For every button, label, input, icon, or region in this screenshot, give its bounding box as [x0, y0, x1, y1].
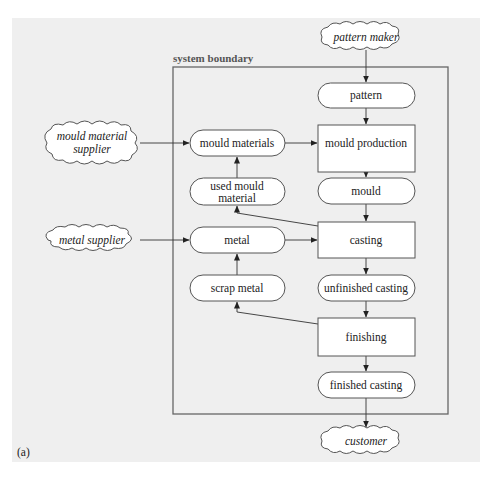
external-customer: customer — [321, 426, 399, 454]
mould-material-supplier-label-line1: mould material — [57, 130, 128, 142]
mould-material-supplier-label-line2: supplier — [73, 143, 111, 156]
pattern-maker-label: pattern maker — [333, 31, 399, 44]
mould-label: mould — [351, 185, 381, 197]
scrap-metal-label: scrap metal — [211, 282, 264, 295]
finished-casting-label: finished casting — [330, 379, 403, 392]
metal-supplier-label: metal supplier — [59, 234, 126, 247]
finishing-label: finishing — [346, 331, 387, 344]
material-pattern: pattern — [318, 83, 415, 108]
system-boundary-label: system boundary — [173, 52, 254, 64]
figure-label: (a) — [17, 446, 30, 459]
used-mould-material-label-line1: used mould — [210, 180, 264, 192]
external-mould-material-supplier: mould material supplier — [45, 121, 138, 164]
material-mould: mould — [318, 178, 415, 204]
metal-label: metal — [224, 234, 250, 246]
process-mould-production: mould production — [318, 125, 415, 172]
external-pattern-maker: pattern maker — [321, 22, 399, 50]
material-unfinished-casting: unfinished casting — [318, 275, 415, 301]
external-metal-supplier: metal supplier — [46, 225, 132, 251]
process-casting: casting — [318, 222, 415, 258]
pattern-label: pattern — [350, 89, 382, 102]
material-metal: metal — [190, 227, 285, 253]
customer-label: customer — [345, 435, 388, 447]
flow-diagram: system boundary pattern maker mould mate… — [0, 0, 495, 477]
process-finishing: finishing — [318, 318, 415, 356]
material-mould-materials: mould materials — [190, 130, 285, 156]
casting-label: casting — [350, 234, 383, 247]
unfinished-casting-label: unfinished casting — [324, 282, 408, 295]
material-scrap-metal: scrap metal — [190, 275, 285, 301]
mould-production-label: mould production — [325, 137, 407, 150]
material-used-mould-material: used mould material — [190, 178, 285, 205]
material-finished-casting: finished casting — [318, 372, 415, 398]
used-mould-material-label-line2: material — [218, 192, 256, 204]
mould-materials-label: mould materials — [200, 137, 275, 149]
